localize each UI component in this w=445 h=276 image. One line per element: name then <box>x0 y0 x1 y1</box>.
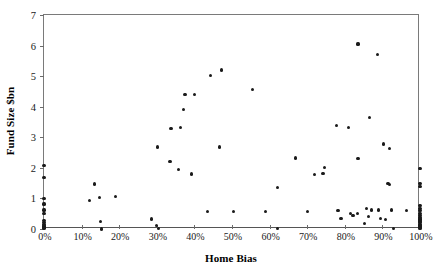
data-point <box>42 197 45 200</box>
data-point <box>251 88 254 91</box>
x-axis-tick-label: 70% <box>299 232 317 242</box>
data-point <box>377 208 380 211</box>
x-axis-tick-label: 90% <box>374 232 392 242</box>
data-point <box>379 217 382 220</box>
data-point <box>209 74 212 77</box>
data-point <box>418 185 421 188</box>
y-axis-tick-label: 3 <box>31 133 36 144</box>
data-point <box>405 209 408 212</box>
data-point <box>220 68 223 71</box>
data-point <box>177 168 180 171</box>
data-point <box>93 182 96 185</box>
data-point <box>206 210 209 213</box>
x-axis-title: Home Bias <box>43 252 419 264</box>
data-point <box>157 227 160 230</box>
data-points-layer <box>44 15 418 227</box>
data-point <box>356 212 359 215</box>
data-point <box>356 42 359 45</box>
y-axis-tick-label: 7 <box>31 11 36 22</box>
x-axis-tick-label: 20% <box>111 232 129 242</box>
data-point <box>156 145 159 148</box>
x-axis-tick-label: 40% <box>186 232 204 242</box>
x-axis-tick-label: 50% <box>224 232 242 242</box>
data-point <box>313 173 316 176</box>
y-axis-title-text: Fund Size $bn <box>4 87 16 156</box>
scatter-chart: Fund Size $bn 01234567 0%10%20%30%40%50%… <box>0 0 445 276</box>
data-point <box>114 195 117 198</box>
data-point <box>42 164 45 167</box>
data-point <box>182 108 185 111</box>
data-point <box>42 176 45 179</box>
data-point <box>376 53 379 56</box>
data-point <box>335 124 338 127</box>
y-axis-tick-label: 6 <box>31 41 36 52</box>
x-axis-tick-label: 30% <box>149 232 167 242</box>
data-point <box>323 166 326 169</box>
data-point <box>384 218 387 221</box>
data-point <box>306 210 309 213</box>
data-point <box>276 186 279 189</box>
plot-area: 01234567 0%10%20%30%40%50%60%70%80%90%10… <box>43 14 419 228</box>
data-point <box>99 220 102 223</box>
data-point <box>388 183 391 186</box>
data-point <box>388 147 391 150</box>
data-point <box>218 145 221 148</box>
x-axis-tick-label: 60% <box>261 232 279 242</box>
data-point <box>42 212 45 215</box>
data-point <box>418 167 421 170</box>
data-point <box>370 208 373 211</box>
data-point <box>367 215 370 218</box>
data-point <box>169 127 172 130</box>
data-point <box>347 126 350 129</box>
data-point <box>390 208 393 211</box>
data-point <box>150 217 153 220</box>
data-point <box>100 227 103 230</box>
data-point <box>382 142 385 145</box>
data-point <box>418 227 421 230</box>
data-point <box>294 156 297 159</box>
x-axis-tick-label: 0% <box>38 232 51 242</box>
x-axis-tick-label: 80% <box>337 232 355 242</box>
data-point <box>356 157 359 160</box>
data-point <box>232 210 235 213</box>
data-point <box>98 196 101 199</box>
data-point <box>368 116 371 119</box>
data-point <box>193 93 196 96</box>
y-axis-title: Fund Size $bn <box>2 0 18 242</box>
data-point <box>42 202 45 205</box>
data-point <box>183 93 186 96</box>
x-axis-tick-label: 100% <box>409 232 432 242</box>
data-point <box>42 226 45 229</box>
data-point <box>351 214 354 217</box>
data-point <box>88 199 91 202</box>
y-axis-tick-label: 4 <box>31 102 36 113</box>
data-point <box>321 172 324 175</box>
data-point <box>168 160 171 163</box>
data-point <box>179 126 182 129</box>
x-axis-tick-label: 10% <box>73 232 91 242</box>
data-point <box>365 207 368 210</box>
data-point <box>276 227 279 230</box>
data-point <box>339 217 342 220</box>
data-point <box>190 172 193 175</box>
y-axis-tick-label: 1 <box>31 194 36 205</box>
y-axis-tick-label: 0 <box>31 225 36 236</box>
data-point <box>264 210 267 213</box>
y-axis-tick-label: 2 <box>31 164 36 175</box>
y-axis-tick-label: 5 <box>31 72 36 83</box>
data-point <box>363 222 366 225</box>
data-point <box>392 227 395 230</box>
data-point <box>336 209 339 212</box>
